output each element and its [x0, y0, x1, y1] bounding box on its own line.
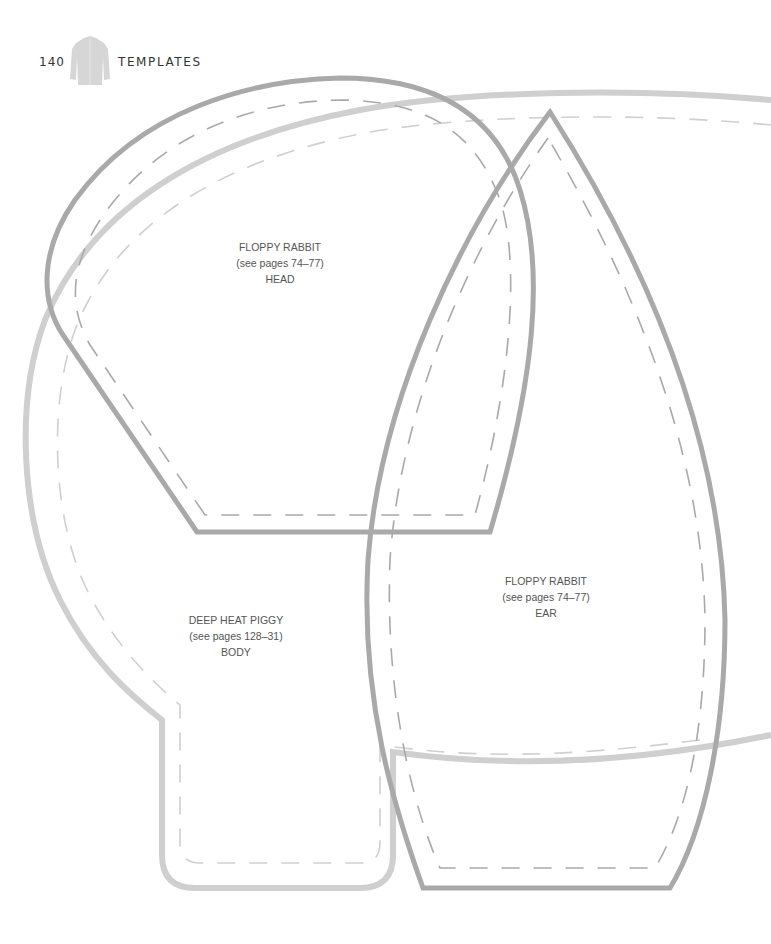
piggy-body-label: DEEP HEAT PIGGY (see pages 128–31) BODY [146, 612, 326, 660]
template-part: HEAD [190, 271, 370, 287]
template-part: EAR [456, 605, 636, 621]
template-name: FLOPPY RABBIT [456, 573, 636, 589]
template-name: DEEP HEAT PIGGY [146, 612, 326, 628]
template-pages: (see pages 74–77) [456, 589, 636, 605]
rabbit-head-template [47, 78, 533, 532]
rabbit-ear-template [367, 112, 725, 888]
template-name: FLOPPY RABBIT [190, 239, 370, 255]
template-pages: (see pages 128–31) [146, 628, 326, 644]
template-part: BODY [146, 644, 326, 660]
rabbit-head-label: FLOPPY RABBIT (see pages 74–77) HEAD [190, 239, 370, 287]
templates-artwork [0, 0, 771, 944]
rabbit-ear-label: FLOPPY RABBIT (see pages 74–77) EAR [456, 573, 636, 621]
template-pages: (see pages 74–77) [190, 255, 370, 271]
